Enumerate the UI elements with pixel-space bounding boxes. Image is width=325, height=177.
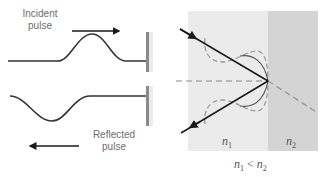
incident-label-line1: Incident	[14, 8, 66, 20]
reflected-label-line2: pulse	[86, 141, 142, 153]
reflected-pulse-label: Reflected pulse	[86, 129, 142, 153]
incident-pulse-group	[8, 31, 153, 72]
medium-1-label: n1	[222, 134, 232, 150]
medium-2	[268, 11, 318, 151]
index-relation: n1 < n2	[234, 157, 267, 173]
incident-pulse-label: Incident pulse	[14, 8, 66, 32]
incident-label-line2: pulse	[14, 20, 66, 32]
reflected-label-line1: Reflected	[86, 129, 142, 141]
reflected-string	[10, 96, 148, 121]
medium-2-label: n2	[286, 134, 296, 150]
wall-top	[146, 32, 149, 72]
incident-string	[8, 34, 148, 61]
wall-bottom	[146, 86, 149, 126]
